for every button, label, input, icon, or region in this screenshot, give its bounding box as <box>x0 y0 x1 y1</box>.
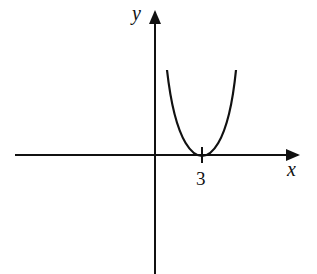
parabola-diagram: y x 3 <box>0 0 317 274</box>
parabola-curve <box>167 70 236 156</box>
x-axis-label: x <box>286 158 296 180</box>
tick-label-3: 3 <box>196 168 206 189</box>
y-axis-label: y <box>130 2 141 25</box>
